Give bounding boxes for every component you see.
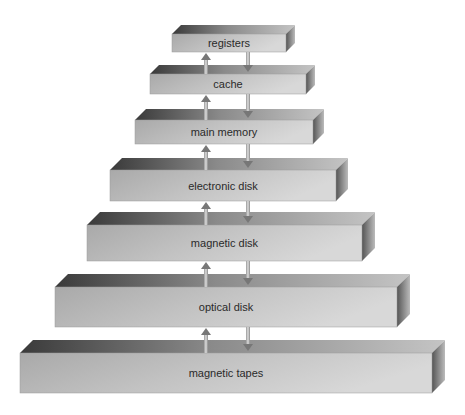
level-cache: cache <box>150 65 315 94</box>
box-top-face <box>135 109 324 120</box>
level-electronic-disk: electronic disk <box>110 158 348 201</box>
box-top-face <box>55 274 410 287</box>
level-label: optical disk <box>199 301 254 313</box>
level-label: main memory <box>191 126 258 138</box>
box-top-face <box>150 65 315 74</box>
level-magnetic-tapes: magnetic tapes <box>20 340 445 393</box>
level-label: electronic disk <box>188 180 258 192</box>
box-top-face <box>172 25 295 34</box>
box-top-face <box>110 158 348 170</box>
level-optical-disk: optical disk <box>55 274 410 327</box>
storage-hierarchy-diagram: registerscachemain memoryelectronic disk… <box>0 0 465 415</box>
level-label: magnetic disk <box>191 237 259 249</box>
level-label: cache <box>213 78 242 90</box>
level-label: registers <box>208 37 251 49</box>
hierarchy-levels: registerscachemain memoryelectronic disk… <box>20 25 445 393</box>
box-top-face <box>20 340 445 353</box>
level-main-memory: main memory <box>135 109 324 144</box>
level-registers: registers <box>172 25 295 52</box>
level-magnetic-disk: magnetic disk <box>87 212 375 261</box>
box-top-face <box>87 212 375 225</box>
level-label: magnetic tapes <box>189 367 264 379</box>
